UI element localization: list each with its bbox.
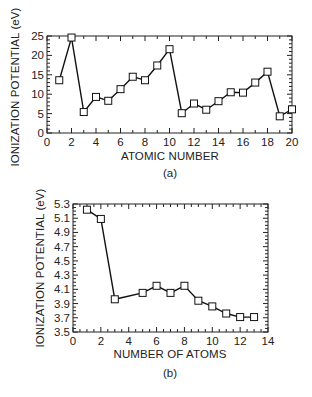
x-tick-label: 8 bbox=[142, 136, 148, 148]
x-tick-label: 0 bbox=[44, 136, 50, 148]
x-tick-label: 4 bbox=[93, 136, 100, 148]
x-tick-label: 6 bbox=[117, 136, 123, 148]
caption-b: (b) bbox=[163, 367, 177, 379]
y-tick-label: 20 bbox=[31, 49, 44, 61]
x-tick-label: 12 bbox=[188, 136, 201, 148]
x-tick-label: 10 bbox=[206, 335, 219, 347]
data-point-marker bbox=[139, 289, 146, 296]
y-tick-label: 5 bbox=[38, 108, 44, 120]
data-point-marker bbox=[289, 106, 296, 113]
data-point-marker bbox=[83, 206, 90, 213]
y-tick-label: 25 bbox=[31, 30, 44, 42]
y-tick-label: 4.7 bbox=[54, 241, 70, 253]
y-tick-label: 4.3 bbox=[54, 269, 70, 281]
y-tick-label: 3.9 bbox=[54, 298, 70, 310]
x-tick-label: 8 bbox=[181, 335, 187, 347]
data-point-marker bbox=[129, 73, 136, 80]
caption-a: (a) bbox=[163, 167, 177, 179]
x-tick-labels-a: 02468101214161820 bbox=[44, 136, 299, 148]
data-point-marker bbox=[264, 68, 271, 75]
x-tick-label: 2 bbox=[98, 335, 104, 347]
x-tick-label: 14 bbox=[262, 335, 275, 347]
x-tick-label: 12 bbox=[234, 335, 247, 347]
data-point-marker bbox=[93, 93, 100, 100]
y-tick-label: 3.7 bbox=[54, 312, 70, 324]
data-point-marker bbox=[252, 79, 259, 86]
x-tick-label: 14 bbox=[212, 136, 225, 148]
data-point-marker bbox=[223, 310, 230, 317]
y-tick-label: 5.3 bbox=[54, 198, 70, 210]
x-tick-label: 16 bbox=[237, 136, 250, 148]
y-tick-labels-b: 3.53.73.94.14.34.54.74.95.15.3 bbox=[54, 198, 70, 338]
data-line-a bbox=[59, 38, 292, 117]
data-point-marker bbox=[117, 86, 124, 93]
data-point-marker bbox=[142, 77, 149, 84]
data-point-marker bbox=[191, 100, 198, 107]
x-axis-title-a: ATOMIC NUMBER bbox=[121, 150, 219, 162]
data-point-marker bbox=[56, 77, 63, 84]
x-tick-label: 18 bbox=[261, 136, 274, 148]
data-markers-a bbox=[56, 34, 296, 120]
data-point-marker bbox=[97, 215, 104, 222]
y-tick-label: 15 bbox=[31, 69, 44, 81]
y-tick-label: 0 bbox=[38, 127, 44, 139]
data-point-marker bbox=[203, 106, 210, 113]
x-tick-label: 0 bbox=[70, 335, 76, 347]
y-tick-label: 4.9 bbox=[54, 226, 70, 238]
data-point-marker bbox=[240, 89, 247, 96]
y-tick-labels-a: 0510152025 bbox=[31, 30, 44, 139]
data-point-marker bbox=[167, 289, 174, 296]
x-tick-label: 4 bbox=[126, 335, 133, 347]
x-tick-label: 6 bbox=[153, 335, 159, 347]
data-point-marker bbox=[251, 314, 258, 321]
chart-panel-a: 02468101214161820 0510152025 ATOMIC NUMB… bbox=[9, 7, 298, 179]
x-tick-labels-b: 02468101214 bbox=[70, 335, 275, 347]
y-tick-label: 4.1 bbox=[54, 283, 70, 295]
data-point-marker bbox=[154, 62, 161, 69]
x-tick-label: 2 bbox=[68, 136, 74, 148]
data-point-marker bbox=[80, 109, 87, 116]
data-point-marker bbox=[276, 113, 283, 120]
data-markers-b bbox=[83, 206, 257, 320]
x-tick-label: 10 bbox=[163, 136, 176, 148]
figure: 02468101214161820 0510152025 ATOMIC NUMB… bbox=[0, 0, 312, 397]
data-point-marker bbox=[237, 314, 244, 321]
data-point-marker bbox=[153, 282, 160, 289]
x-tick-label: 20 bbox=[286, 136, 299, 148]
chart-panel-b: 02468101214 3.53.73.94.14.34.54.74.95.15… bbox=[34, 188, 275, 379]
data-point-marker bbox=[227, 89, 234, 96]
y-tick-label: 10 bbox=[31, 88, 44, 100]
y-axis-title-b: IONIZATION POTENTIAL (eV) bbox=[34, 188, 46, 347]
data-point-marker bbox=[181, 282, 188, 289]
x-axis-title-b: NUMBER OF ATOMS bbox=[114, 348, 227, 360]
data-point-marker bbox=[178, 110, 185, 117]
data-point-marker bbox=[166, 46, 173, 53]
data-point-marker bbox=[68, 34, 75, 41]
data-point-marker bbox=[111, 296, 118, 303]
y-axis-title-a: IONIZATION POTENTIAL (eV) bbox=[9, 7, 21, 166]
data-point-marker bbox=[105, 97, 112, 104]
y-tick-label: 3.5 bbox=[54, 326, 70, 338]
data-point-marker bbox=[195, 297, 202, 304]
data-point-marker bbox=[215, 98, 222, 105]
data-point-marker bbox=[209, 303, 216, 310]
y-tick-label: 4.5 bbox=[54, 255, 70, 267]
y-tick-label: 5.1 bbox=[54, 212, 70, 224]
